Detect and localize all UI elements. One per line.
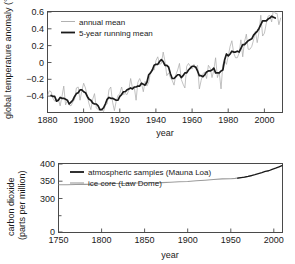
temp-x-ticklabel-1920: 1920 bbox=[110, 115, 130, 125]
temp-x-axis-label: year bbox=[156, 128, 174, 138]
co2-x-ticklabel-1900: 1900 bbox=[178, 235, 198, 245]
temp-legend-label-annual: annual mean bbox=[79, 18, 125, 27]
temp-y-ticklabel-0.4: 0.4 bbox=[31, 24, 44, 34]
temp-y-ticklabel-0.2: 0.2 bbox=[31, 41, 44, 51]
co2-x-ticks: 1750 1800 1850 1900 1950 2000 bbox=[48, 229, 283, 246]
temp-x-ticklabel-2000: 2000 bbox=[254, 115, 274, 125]
co2-x-ticklabel-1950: 1950 bbox=[221, 235, 241, 245]
temp-legend-label-running: 5-year running mean bbox=[79, 29, 153, 38]
carbon-dioxide-chart: carbon dioxide (parts per million) 400 3… bbox=[0, 140, 295, 264]
temp-y-axis-label: global temperature anomaly (°C) bbox=[3, 0, 13, 119]
co2-legend-label-mauna: atmospheric samples (Mauna Loa) bbox=[88, 168, 212, 177]
temp-y-ticklabel-0: 0 bbox=[39, 58, 44, 68]
co2-y-axis-label-line1: carbon dioxide bbox=[6, 177, 16, 236]
carbon-dioxide-panel: carbon dioxide (parts per million) 400 3… bbox=[0, 140, 295, 264]
temp-x-ticklabel-1980: 1980 bbox=[218, 115, 238, 125]
co2-x-axis-label: year bbox=[161, 250, 179, 260]
temp-x-ticklabel-1900: 1900 bbox=[74, 115, 94, 125]
temp-y-ticklabel-0.6: 0.6 bbox=[31, 7, 44, 17]
temp-x-ticks: 1880 1900 1920 1940 1960 1980 2000 bbox=[37, 109, 274, 126]
co2-y-ticklabel-300: 300 bbox=[40, 194, 55, 204]
co2-x-ticklabel-1850: 1850 bbox=[135, 235, 155, 245]
temperature-anomaly-panel: global temperature anomaly (°C) 0.6 0.4 … bbox=[0, 0, 295, 140]
co2-y-ticklabel-400: 400 bbox=[40, 159, 55, 169]
co2-y-ticks: 400 350 300 0 bbox=[40, 159, 63, 237]
climate-figure: global temperature anomaly (°C) 0.6 0.4 … bbox=[0, 0, 295, 264]
temp-x-ticklabel-1960: 1960 bbox=[182, 115, 202, 125]
co2-legend: atmospheric samples (Mauna Loa) ice core… bbox=[70, 168, 212, 188]
co2-y-axis-label-line2: (parts per million) bbox=[17, 170, 27, 240]
temperature-anomaly-chart: global temperature anomaly (°C) 0.6 0.4 … bbox=[0, 0, 295, 140]
co2-x-ticklabel-2000: 2000 bbox=[264, 235, 284, 245]
co2-x-ticklabel-1750: 1750 bbox=[48, 235, 68, 245]
temp-x-ticklabel-1880: 1880 bbox=[37, 115, 57, 125]
co2-mauna-loa-series bbox=[238, 165, 283, 178]
co2-legend-label-icecore: ice core (Law Dome) bbox=[88, 179, 162, 188]
temp-x-ticklabel-1940: 1940 bbox=[146, 115, 166, 125]
co2-x-ticklabel-1800: 1800 bbox=[92, 235, 112, 245]
temp-y-ticklabel-neg0.2: −0.2 bbox=[26, 74, 44, 84]
temp-legend: annual mean 5-year running mean bbox=[61, 18, 153, 38]
co2-y-ticklabel-350: 350 bbox=[40, 176, 55, 186]
temp-y-ticklabel-neg0.4: −0.4 bbox=[26, 91, 44, 101]
